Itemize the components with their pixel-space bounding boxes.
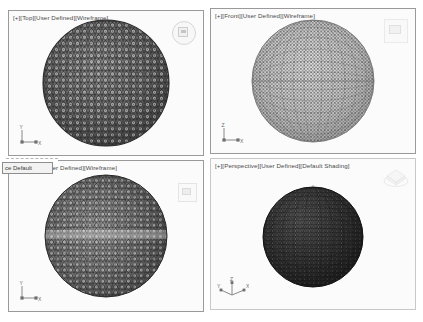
viewport-label-front: [+][Front][User Defined][Wireframe]	[215, 12, 315, 20]
viewport-perspective[interactable]: Z [+][Perspective][User Defined][Default…	[210, 158, 416, 310]
view-cube-icon[interactable]	[381, 165, 411, 191]
axis-tripod-front: Z X	[219, 121, 245, 145]
viewport-top[interactable]: [+][Top][User Defined][Wireframe] Y X	[8, 10, 204, 156]
viewport-user-defined[interactable]: [User Defined][Wireframe] Y X	[8, 160, 204, 312]
svg-text:Y: Y	[20, 280, 24, 286]
view-navigator-round-icon[interactable]	[172, 21, 196, 45]
svg-text:X: X	[240, 138, 244, 144]
axis-tripod-perspective: Z Y X	[217, 277, 249, 303]
axis-tripod-user-defined: Y X	[17, 279, 43, 303]
svg-text:Y: Y	[20, 124, 24, 130]
surface-default-popup[interactable]: ce Default	[2, 162, 53, 174]
svg-text:Y: Y	[217, 283, 221, 289]
axis-tripod-top: Y X	[17, 123, 43, 147]
svg-text:X: X	[38, 296, 42, 302]
view-navigator-square-icon[interactable]	[384, 19, 408, 43]
svg-text:X: X	[38, 140, 42, 146]
viewport-label-user-defined: [User Defined][Wireframe]	[43, 164, 117, 172]
svg-text:X: X	[246, 283, 249, 289]
viewport-label-top: [+][Top][User Defined][Wireframe]	[13, 14, 108, 22]
svg-text:Z: Z	[230, 277, 233, 282]
svg-text:Z: Z	[222, 122, 225, 128]
viewport-label-perspective: [+][Perspective][User Defined][Default S…	[215, 162, 350, 170]
viewport-grid-app: [+][Top][User Defined][Wireframe] Y X	[0, 0, 423, 322]
view-navigator-small-icon[interactable]	[178, 183, 197, 202]
viewport-front[interactable]: [+][Front][User Defined][Wireframe] Z X	[210, 8, 416, 154]
